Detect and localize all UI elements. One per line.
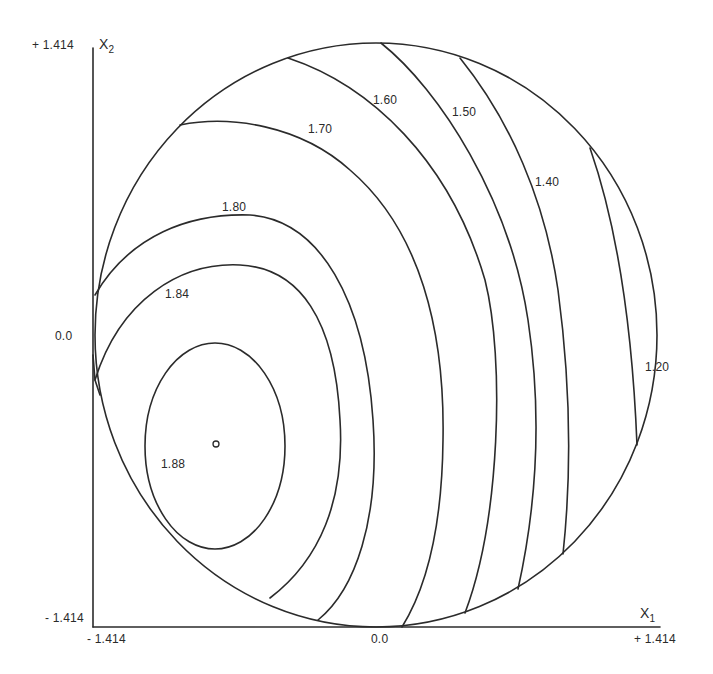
contour-label-1.50: 1.50 [452, 105, 476, 119]
x-tick-max: + 1.414 [634, 632, 676, 646]
contour-1.80 [95, 215, 374, 620]
y-tick-mid: 0.0 [55, 329, 72, 343]
y-tick-max: + 1.414 [32, 38, 74, 52]
x-tick-min: - 1.414 [87, 632, 126, 646]
contour-1.50 [381, 43, 536, 589]
contour-1.60 [288, 58, 497, 613]
x-axis-name-text: X [640, 605, 650, 621]
contour-label-1.88: 1.88 [161, 457, 185, 471]
contour-1.40 [460, 58, 569, 554]
contour-label-1.20: 1.20 [645, 360, 669, 374]
x-tick-mid: 0.0 [371, 632, 388, 646]
y-axis-name: X2 [99, 36, 114, 55]
contour-plot: X2 X1 + 1.414 0.0 - 1.414 - 1.414 0.0 + … [0, 0, 713, 674]
y-axis-name-text: X [99, 36, 109, 52]
contour-1.20 [590, 148, 637, 445]
contour-label-1.84: 1.84 [165, 287, 189, 301]
optimum-marker [213, 441, 219, 447]
contour-label-1.60: 1.60 [373, 93, 397, 107]
contour-label-1.70: 1.70 [308, 122, 332, 136]
contour-plot-svg [0, 0, 713, 674]
contour-label-1.40: 1.40 [535, 175, 559, 189]
contour-label-1.80: 1.80 [222, 200, 246, 214]
x-axis-name-sub: 1 [650, 613, 656, 624]
region-boundary-circle [95, 43, 657, 627]
x-axis-name: X1 [640, 605, 655, 624]
y-axis-name-sub: 2 [109, 44, 115, 55]
y-tick-min: - 1.414 [45, 611, 84, 625]
contour-1.88 [145, 343, 285, 549]
contour-1.84 [95, 265, 341, 598]
